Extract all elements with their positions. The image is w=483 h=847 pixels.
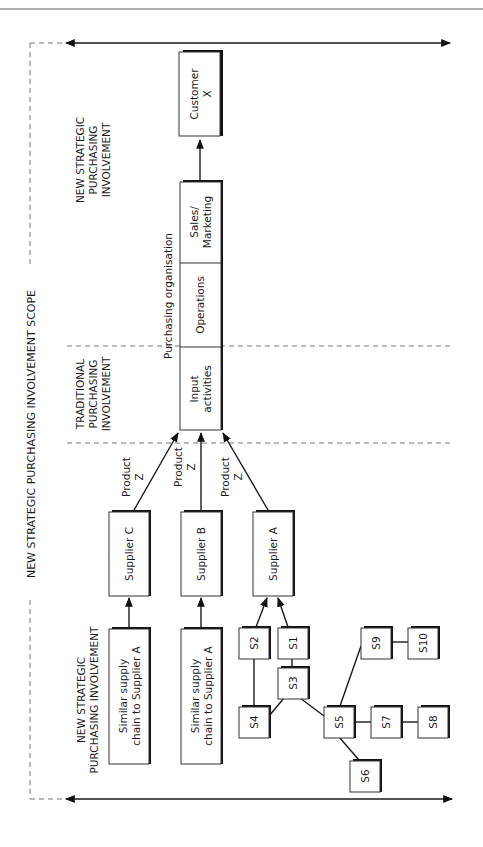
svg-text:S9: S9 xyxy=(370,636,382,649)
svg-text:PURCHASING: PURCHASING xyxy=(87,126,99,195)
supplier-b-box: Supplier B xyxy=(181,510,223,596)
flow-label-b: Product Z xyxy=(172,447,197,487)
node-s7: S7 xyxy=(371,705,403,738)
svg-text:S8: S8 xyxy=(427,715,439,728)
scope-label: NEW STRATEGIC PURCHASING INVOLVEMENT SCO… xyxy=(25,290,38,578)
svg-text:PURCHASING: PURCHASING xyxy=(87,360,99,429)
svg-text:NEW STRATEGIC: NEW STRATEGIC xyxy=(74,117,86,203)
flow-label-c: Product Z xyxy=(120,457,145,497)
customer-box: Customer X xyxy=(179,50,223,136)
svg-text:activities: activities xyxy=(201,365,213,412)
svg-text:Marketing: Marketing xyxy=(201,196,213,248)
svg-text:Z: Z xyxy=(232,473,244,480)
svg-text:S4: S4 xyxy=(248,715,260,729)
svg-text:S3: S3 xyxy=(287,676,299,689)
node-s2: S2 xyxy=(239,626,271,659)
svg-text:NEW STRATEGIC: NEW STRATEGIC xyxy=(75,657,87,743)
diagram-canvas: NEW STRATEGIC PURCHASING INVOLVEMENT SCO… xyxy=(0,0,483,847)
svg-text:Similar supply: Similar supply xyxy=(189,659,201,733)
org-section-operations: Operations xyxy=(194,276,206,334)
svg-text:Sales/: Sales/ xyxy=(188,206,200,238)
supplier-c-box: Supplier C xyxy=(109,510,151,596)
svg-text:INVOLVEMENT: INVOLVEMENT xyxy=(100,356,112,431)
svg-text:chain to Supplier A: chain to Supplier A xyxy=(130,645,142,745)
organisation-box: Sales/ Marketing Operations Input activi… xyxy=(180,180,223,430)
svg-text:X: X xyxy=(201,90,213,97)
svg-text:Operations: Operations xyxy=(194,276,206,334)
svg-text:chain to Supplier A: chain to Supplier A xyxy=(202,645,214,745)
svg-text:Similar supply: Similar supply xyxy=(117,659,129,733)
node-s3: S3 xyxy=(278,666,310,699)
zone-label-top: NEW STRATEGIC PURCHASING INVOLVEMENT xyxy=(74,117,112,203)
svg-text:Customer: Customer xyxy=(188,68,200,120)
svg-text:TRADITIONAL: TRADITIONAL xyxy=(74,359,86,430)
node-s4: S4 xyxy=(239,705,271,738)
svg-text:Input: Input xyxy=(188,375,200,402)
svg-text:Product: Product xyxy=(172,447,184,487)
svg-text:Supplier A: Supplier A xyxy=(267,526,279,581)
node-s10: S10 xyxy=(408,626,440,659)
node-s1: S1 xyxy=(278,626,310,659)
svg-text:Supplier C: Supplier C xyxy=(123,527,135,581)
node-s9: S9 xyxy=(361,626,393,659)
svg-text:Product: Product xyxy=(219,457,231,497)
zone-label-middle: TRADITIONAL PURCHASING INVOLVEMENT xyxy=(74,356,112,431)
svg-text:INVOLVEMENT: INVOLVEMENT xyxy=(100,122,112,197)
svg-text:S10: S10 xyxy=(417,633,429,653)
supplier-a-box: Supplier A xyxy=(253,510,295,596)
node-s6: S6 xyxy=(350,759,382,792)
similar-chain-c-box: Similar supply chain to Supplier A xyxy=(109,627,151,764)
zone-label-bottom: NEW STRATEGIC PURCHASING INVOLVEMENT xyxy=(75,626,100,774)
svg-text:S5: S5 xyxy=(333,715,345,728)
svg-text:PURCHASING INVOLVEMENT: PURCHASING INVOLVEMENT xyxy=(88,626,100,774)
svg-text:S6: S6 xyxy=(359,769,371,783)
svg-text:S1: S1 xyxy=(287,636,299,649)
node-s8: S8 xyxy=(418,705,450,738)
node-s5: S5 xyxy=(324,705,356,738)
organisation-title: Purchasing organisation xyxy=(162,233,174,359)
svg-text:Supplier B: Supplier B xyxy=(195,527,207,581)
svg-text:Product: Product xyxy=(120,457,132,497)
svg-text:Z: Z xyxy=(133,473,145,480)
svg-text:S7: S7 xyxy=(380,715,392,728)
svg-text:S2: S2 xyxy=(248,636,260,649)
similar-chain-b-box: Similar supply chain to Supplier A xyxy=(181,627,223,764)
svg-text:Z: Z xyxy=(185,463,197,470)
